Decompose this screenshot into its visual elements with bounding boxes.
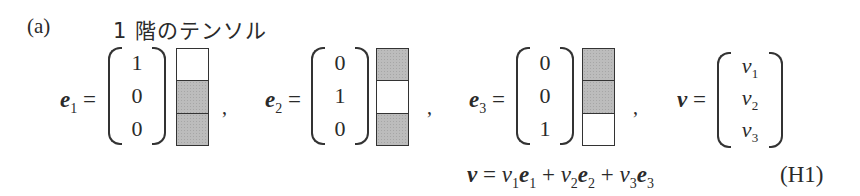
cell-empty — [177, 49, 208, 81]
right-paren — [769, 52, 783, 148]
left-paren — [516, 47, 530, 145]
e2-cell-diagram — [376, 48, 409, 146]
e3-label: e3 = — [469, 87, 505, 117]
left-paren — [311, 47, 325, 145]
panel-heading: 1 階のテンソル — [113, 14, 267, 44]
v-label: v = — [677, 87, 706, 113]
cell-shaded — [177, 81, 208, 113]
right-paren — [152, 47, 166, 145]
cell-shaded — [583, 49, 614, 81]
equation-number: (H1) — [780, 162, 823, 188]
right-paren — [560, 47, 574, 145]
separator-comma: , — [633, 96, 638, 119]
panel-label: (a) — [27, 14, 50, 39]
cell-empty — [583, 114, 614, 145]
e1-cell-diagram — [176, 48, 209, 146]
left-paren — [717, 52, 731, 148]
cell-empty — [377, 81, 408, 113]
e1-column-vector: 1 0 0 — [108, 47, 166, 145]
right-paren — [355, 47, 369, 145]
cell-shaded — [583, 81, 614, 113]
e2-column-vector: 0 1 0 — [311, 47, 369, 145]
v-column-vector: v1 v2 v3 — [717, 52, 783, 148]
separator-comma: , — [222, 96, 227, 119]
e2-label: e2 = — [265, 87, 301, 117]
e1-label: e1 = — [60, 87, 96, 117]
cell-shaded — [177, 114, 208, 145]
expansion-equation: v = v1e1 + v2e2 + v3e3 — [467, 162, 654, 192]
e3-column-vector: 0 0 1 — [516, 47, 574, 145]
left-paren — [108, 47, 122, 145]
e3-cell-diagram — [582, 48, 615, 146]
cell-shaded — [377, 114, 408, 145]
separator-comma: , — [427, 96, 432, 119]
cell-shaded — [377, 49, 408, 81]
